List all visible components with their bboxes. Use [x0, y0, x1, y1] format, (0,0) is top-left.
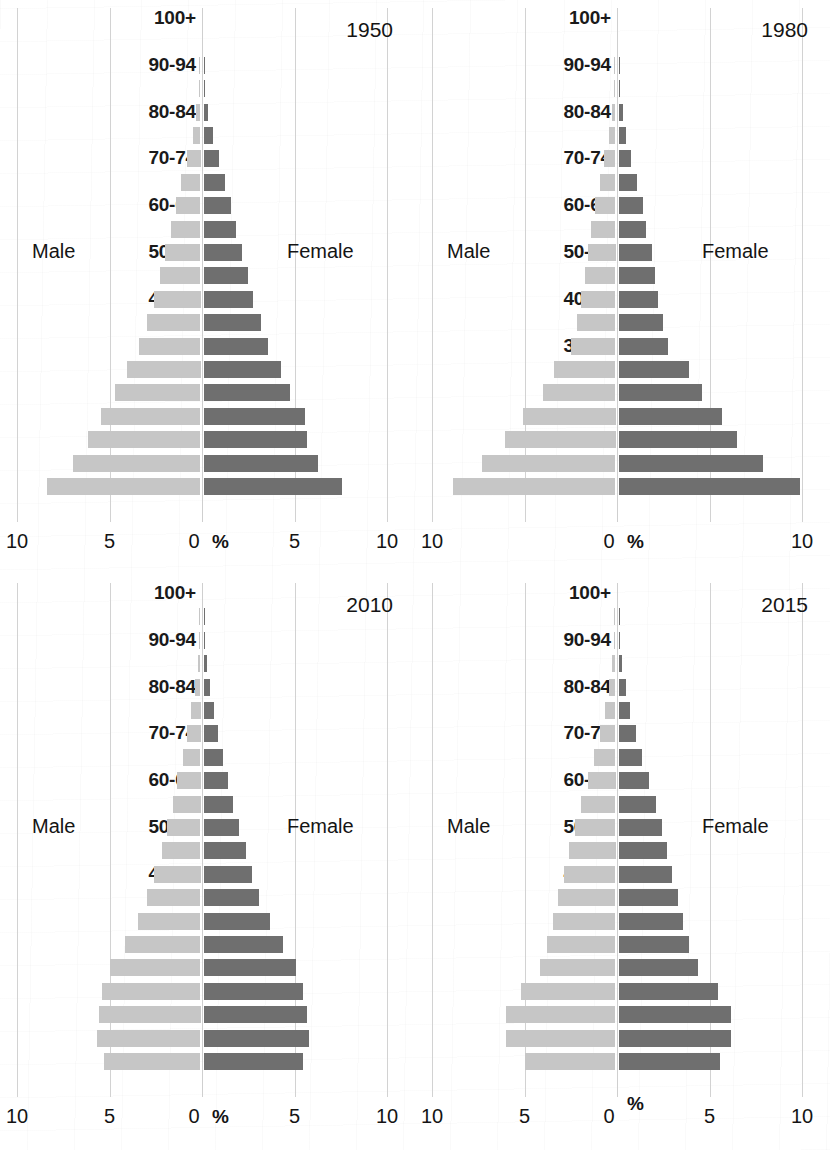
- bar-male: [125, 936, 201, 953]
- bar-male: [554, 361, 615, 378]
- bar-male: [88, 431, 201, 448]
- percent-axis-label: %: [212, 1106, 229, 1128]
- bar-male: [199, 80, 200, 97]
- bar-male: [187, 725, 201, 742]
- bar-female: [204, 80, 206, 97]
- bar-male: [553, 913, 616, 930]
- x-axis-tick-label: 5: [519, 1105, 530, 1128]
- bar-female: [204, 361, 282, 378]
- bar-male: [600, 725, 616, 742]
- plot-area-2010: 100+90-9480-8470-7460-6450-5440-4430-342…: [0, 575, 415, 1150]
- bar-female: [204, 267, 248, 284]
- pyramid-row: [0, 1004, 415, 1024]
- pyramid-row: [415, 723, 830, 743]
- bar-rows: 100+90-9480-8470-7460-6450-5440-4430-342…: [0, 8, 415, 522]
- bar-female: [204, 983, 304, 1000]
- bar-male: [97, 1030, 201, 1047]
- bar-female: [619, 819, 662, 836]
- bar-female: [619, 127, 626, 144]
- bar-male: [127, 361, 201, 378]
- bar-male: [191, 702, 200, 719]
- pyramid-row: [0, 172, 415, 192]
- bar-female: [204, 221, 236, 238]
- pyramid-row: [0, 723, 415, 743]
- bar-male: [523, 408, 616, 425]
- bar-male: [605, 702, 615, 719]
- bar-male: [162, 842, 201, 859]
- bar-male: [614, 57, 615, 74]
- pyramid-row: [415, 1051, 830, 1071]
- bar-male: [198, 655, 201, 672]
- bar-female: [619, 749, 642, 766]
- bar-male: [604, 150, 615, 167]
- bar-female: [619, 913, 684, 930]
- bar-rows: 100+90-9480-8470-7460-6450-5440-4430-342…: [415, 8, 830, 522]
- bar-male: [547, 936, 615, 953]
- bar-female: [204, 338, 269, 355]
- bar-male: [99, 1006, 201, 1023]
- pyramid-row: [0, 195, 415, 215]
- bar-female: [204, 936, 284, 953]
- bar-male: [506, 1030, 615, 1047]
- pyramid-row: [0, 630, 415, 650]
- bar-female: [204, 291, 254, 308]
- pyramid-row: [415, 476, 830, 496]
- female-legend-label: Female: [287, 240, 354, 263]
- pyramid-row: [415, 1004, 830, 1024]
- bar-female: [619, 338, 669, 355]
- x-axis-tick-label: 10: [421, 1105, 443, 1128]
- bar-female: [204, 796, 234, 813]
- bar-female: [619, 632, 620, 649]
- pyramid-row: [0, 312, 415, 332]
- pyramid-row: [415, 934, 830, 954]
- panel-1950: 100+90-9480-8470-7460-6450-5440-4430-342…: [0, 0, 415, 575]
- pyramid-row: [415, 55, 830, 75]
- bar-female: [204, 455, 319, 472]
- pyramid-row: [415, 981, 830, 1001]
- bar-male: [199, 632, 200, 649]
- bar-male: [564, 866, 616, 883]
- pyramid-row: [415, 840, 830, 860]
- bar-male: [147, 889, 201, 906]
- pyramid-row: [415, 864, 830, 884]
- year-title: 2010: [346, 593, 393, 617]
- x-axis-tick-label: 10: [6, 530, 28, 553]
- bar-male: [167, 819, 200, 836]
- bar-female: [619, 431, 737, 448]
- pyramid-row: [415, 102, 830, 122]
- bar-male: [171, 221, 201, 238]
- pyramid-row: [415, 125, 830, 145]
- pyramid-row: [0, 887, 415, 907]
- pyramid-row: [0, 934, 415, 954]
- bar-male: [183, 749, 201, 766]
- pyramid-row: [415, 911, 830, 931]
- bar-male: [101, 408, 201, 425]
- bar-female: [619, 1053, 721, 1070]
- bar-female: [204, 749, 223, 766]
- bar-female: [619, 478, 800, 495]
- percent-axis-label: %: [627, 1093, 644, 1115]
- bar-female: [619, 936, 689, 953]
- female-legend-label: Female: [287, 815, 354, 838]
- bar-female: [619, 408, 723, 425]
- bar-male: [614, 608, 615, 625]
- x-axis-tick-label: 10: [6, 1105, 28, 1128]
- bar-female: [619, 655, 623, 672]
- bar-female: [619, 455, 763, 472]
- pyramid-row: [0, 677, 415, 697]
- bar-male: [505, 431, 616, 448]
- bar-male: [581, 291, 615, 308]
- x-axis-tick-label: 0: [188, 1105, 199, 1128]
- plot-area-1980: 100+90-9480-8470-7460-6450-5440-4430-342…: [415, 0, 830, 575]
- bar-male: [609, 679, 615, 696]
- bar-male: [558, 889, 615, 906]
- male-legend-label: Male: [32, 815, 75, 838]
- bar-male: [165, 244, 200, 261]
- panel-1980: 100+90-9480-8470-7460-6450-5440-4430-342…: [415, 0, 830, 575]
- pyramid-row: [415, 887, 830, 907]
- x-axis-tick-label: 5: [704, 1105, 715, 1128]
- bar-male: [591, 221, 615, 238]
- pyramid-row: [0, 957, 415, 977]
- bar-male: [147, 314, 201, 331]
- bar-male: [569, 842, 615, 859]
